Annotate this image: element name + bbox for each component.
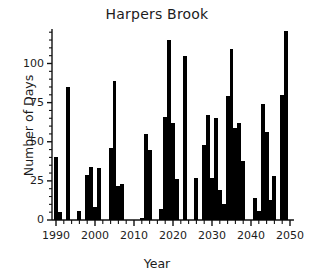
chart-figure: Harpers Brook Number of Days Year 025507…: [0, 0, 314, 278]
plot-area: 0255075100 1990200020102020203020402050: [0, 0, 314, 278]
x-tick-label: 1990: [36, 229, 76, 242]
bar: [175, 179, 179, 220]
x-tick-label: 2050: [270, 229, 310, 242]
bar: [194, 178, 198, 220]
x-tick-label: 2030: [192, 229, 232, 242]
bar: [77, 211, 81, 220]
x-tick-label: 2020: [153, 229, 193, 242]
y-tick-label: 25: [14, 174, 44, 187]
bar: [183, 56, 187, 220]
y-tick-label: 0: [14, 213, 44, 226]
x-tick-label: 2040: [231, 229, 271, 242]
bar: [272, 176, 276, 220]
bar: [66, 87, 70, 220]
y-tick-label: 100: [14, 57, 44, 70]
bar: [284, 31, 288, 220]
bar: [54, 157, 58, 220]
bar: [97, 168, 101, 220]
bar: [58, 212, 62, 220]
y-tick-label: 75: [14, 96, 44, 109]
y-tick-label: 50: [14, 135, 44, 148]
bar: [120, 184, 124, 220]
bar: [241, 161, 245, 220]
x-tick-label: 2000: [75, 229, 115, 242]
x-tick-label: 2010: [114, 229, 154, 242]
bar: [148, 150, 152, 220]
